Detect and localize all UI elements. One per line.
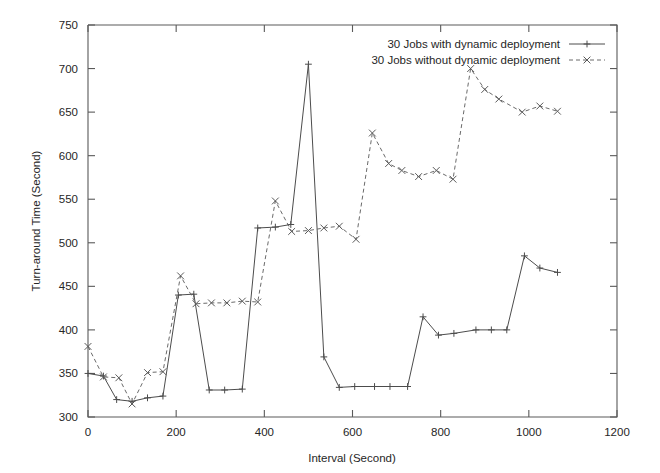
data-point	[272, 224, 279, 231]
line-chart: 300350400450500550600650700750 020040060…	[0, 0, 660, 473]
data-point	[398, 167, 405, 174]
legend-sample-marker-1	[584, 41, 591, 48]
series-2	[85, 65, 561, 407]
x-tick-label: 800	[431, 426, 450, 438]
data-point	[239, 386, 246, 393]
plot-frame	[88, 25, 617, 417]
x-tick-label: 1000	[516, 426, 542, 438]
data-point	[404, 383, 411, 390]
data-point	[288, 228, 295, 235]
data-point	[254, 225, 261, 232]
data-point	[554, 108, 561, 115]
x-axis-title: Interval (Second)	[308, 452, 396, 464]
x-tick-label: 200	[167, 426, 186, 438]
data-point	[387, 383, 394, 390]
y-axis-title: Turn-around Time (Second)	[30, 150, 42, 291]
data-point	[144, 394, 151, 401]
data-point	[554, 269, 561, 276]
y-tick-label: 650	[59, 106, 78, 118]
data-point	[473, 326, 480, 333]
data-point	[113, 396, 120, 403]
data-point	[320, 353, 327, 360]
y-tick-label: 600	[59, 150, 78, 162]
data-point	[351, 383, 358, 390]
y-axis-ticks: 300350400450500550600650700750	[59, 19, 617, 423]
x-tick-label: 1200	[604, 426, 630, 438]
data-point	[100, 373, 107, 380]
y-tick-label: 750	[59, 19, 78, 31]
series-line-dashed	[88, 69, 557, 404]
chart-figure: 300350400450500550600650700750 020040060…	[0, 0, 660, 473]
x-tick-label: 0	[85, 426, 91, 438]
data-point	[336, 223, 343, 230]
data-point	[160, 393, 167, 400]
data-point	[385, 160, 392, 167]
y-tick-label: 500	[59, 237, 78, 249]
y-tick-label: 450	[59, 280, 78, 292]
data-point	[450, 176, 457, 183]
data-point	[336, 384, 343, 391]
data-point	[371, 383, 378, 390]
y-tick-label: 300	[59, 411, 78, 423]
legend-label-2: 30 Jobs without dynamic deployment	[371, 54, 560, 66]
data-point	[415, 173, 422, 180]
series-layer	[85, 61, 561, 408]
data-point	[190, 291, 197, 298]
y-tick-label: 400	[59, 324, 78, 336]
y-tick-label: 700	[59, 63, 78, 75]
data-point	[115, 374, 122, 381]
series-1	[85, 61, 561, 405]
data-point	[503, 326, 510, 333]
legend-label-1: 30 Jobs with dynamic deployment	[387, 38, 560, 50]
data-point	[495, 96, 502, 103]
data-point	[305, 61, 312, 68]
data-point	[144, 369, 151, 376]
data-point	[450, 330, 457, 337]
data-point	[353, 236, 360, 243]
x-tick-label: 400	[255, 426, 274, 438]
data-point	[536, 103, 543, 110]
data-point	[221, 387, 228, 394]
data-point	[519, 109, 526, 116]
data-point	[175, 292, 182, 299]
x-tick-label: 600	[343, 426, 362, 438]
y-tick-label: 350	[59, 367, 78, 379]
data-point	[488, 326, 495, 333]
series-line-solid	[88, 64, 557, 401]
data-point	[433, 167, 440, 174]
data-point	[206, 387, 213, 394]
data-point	[481, 86, 488, 93]
chart-legend: 30 Jobs with dynamic deployment30 Jobs w…	[371, 38, 605, 66]
y-tick-label: 550	[59, 193, 78, 205]
data-point	[85, 370, 92, 377]
